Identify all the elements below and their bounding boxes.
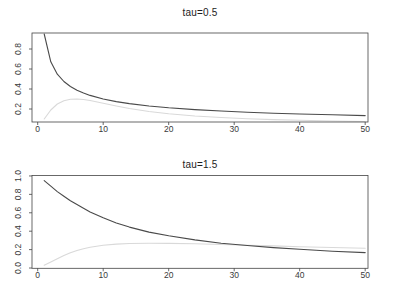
y-axis-tick-label-tau05: 0.2 xyxy=(13,103,23,115)
figure-canvas: tau=0.5 tau=1.5 010203040500.20.40.60.80… xyxy=(0,0,395,307)
y-axis-tick-label-tau15: 0.2 xyxy=(13,243,23,255)
y-axis-tick-label-tau15: 0.6 xyxy=(13,207,23,219)
x-axis-tick-label-tau15: 20 xyxy=(164,270,174,280)
plot-border-tau05 xyxy=(32,33,368,122)
x-axis-tick-label-tau15: 50 xyxy=(360,270,370,280)
y-axis-tick-label-tau05: 0.6 xyxy=(13,63,23,75)
y-axis-tick-label-tau15: 0.8 xyxy=(13,188,23,200)
plot-border-tau15 xyxy=(32,176,368,269)
x-axis-tick-label-tau05: 30 xyxy=(229,124,239,134)
y-axis-tick-label-tau05: 0.4 xyxy=(13,83,23,95)
plots-svg: 010203040500.20.40.60.8010203040500.00.2… xyxy=(0,0,395,307)
series-decay-curve-tau15 xyxy=(44,181,365,253)
x-axis-tick-label-tau05: 50 xyxy=(360,124,370,134)
series-decay-curve-tau05 xyxy=(44,34,365,116)
x-axis-tick-label-tau05: 20 xyxy=(164,124,174,134)
x-axis-tick-label-tau15: 10 xyxy=(98,270,108,280)
y-axis-tick-label-tau15: 0.4 xyxy=(13,225,23,237)
x-axis-tick-label-tau05: 40 xyxy=(295,124,305,134)
x-axis-tick-label-tau05: 10 xyxy=(98,124,108,134)
y-axis-tick-label-tau05: 0.8 xyxy=(13,43,23,55)
series-rise-plateau-curve-tau15 xyxy=(44,243,365,265)
y-axis-tick-label-tau15: 0.0 xyxy=(13,262,23,274)
x-axis-tick-label-tau05: 0 xyxy=(35,124,40,134)
x-axis-tick-label-tau15: 0 xyxy=(35,270,40,280)
y-axis-tick-label-tau15: 1.0 xyxy=(13,170,23,182)
x-axis-tick-label-tau15: 40 xyxy=(295,270,305,280)
x-axis-tick-label-tau15: 30 xyxy=(229,270,239,280)
